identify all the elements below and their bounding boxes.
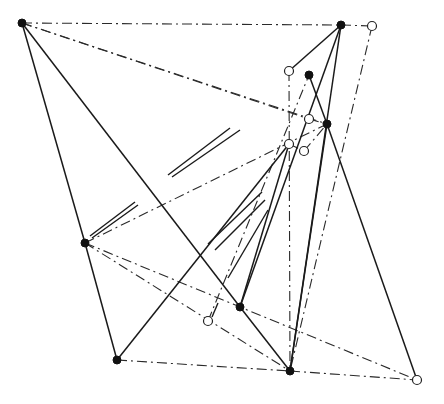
hollow-point-O xyxy=(413,376,422,385)
hollow-point-H xyxy=(285,140,294,149)
dashdot-line-CN xyxy=(290,26,372,371)
dashdot-line-JO xyxy=(85,243,417,380)
hollow-point-I xyxy=(300,147,309,156)
solid-line-MH xyxy=(117,144,289,360)
solid-line-AJ xyxy=(22,23,85,243)
partial-segments xyxy=(90,128,268,317)
solid-line-KN xyxy=(240,307,290,371)
filled-point-K xyxy=(236,303,244,311)
solid-line-JM xyxy=(85,243,117,360)
filled-point-G xyxy=(323,120,331,128)
dashdot-line-DN xyxy=(289,71,290,371)
filled-point-N xyxy=(286,367,294,375)
hollow-point-D xyxy=(285,67,294,76)
dash-dot-lines xyxy=(22,23,417,380)
hollow-point-L xyxy=(204,317,213,326)
dashdot-line-NO xyxy=(290,371,417,380)
dashdot-line-AF xyxy=(22,23,309,119)
solid-line-GN xyxy=(290,124,327,371)
hollow-point-C xyxy=(368,22,377,31)
filled-point-M xyxy=(113,356,121,364)
filled-point-B xyxy=(337,21,345,29)
geometric-diagram xyxy=(0,0,444,404)
hollow-point-F xyxy=(305,115,314,124)
solid-lines xyxy=(22,23,417,380)
partial-segment xyxy=(90,202,135,236)
dashdot-line-AB xyxy=(22,23,341,25)
partial-segment xyxy=(212,303,218,317)
filled-point-J xyxy=(81,239,89,247)
filled-point-A xyxy=(18,19,26,27)
partial-segment xyxy=(92,205,138,238)
dashdot-line-MN xyxy=(117,360,290,371)
filled-point-E xyxy=(305,71,313,79)
solid-line-AK xyxy=(22,23,240,307)
dashdot-line-JN xyxy=(85,243,290,371)
partial-segment xyxy=(172,130,240,177)
partial-segment xyxy=(168,128,230,175)
solid-line-GO xyxy=(327,124,417,380)
partial-segment xyxy=(208,192,262,244)
